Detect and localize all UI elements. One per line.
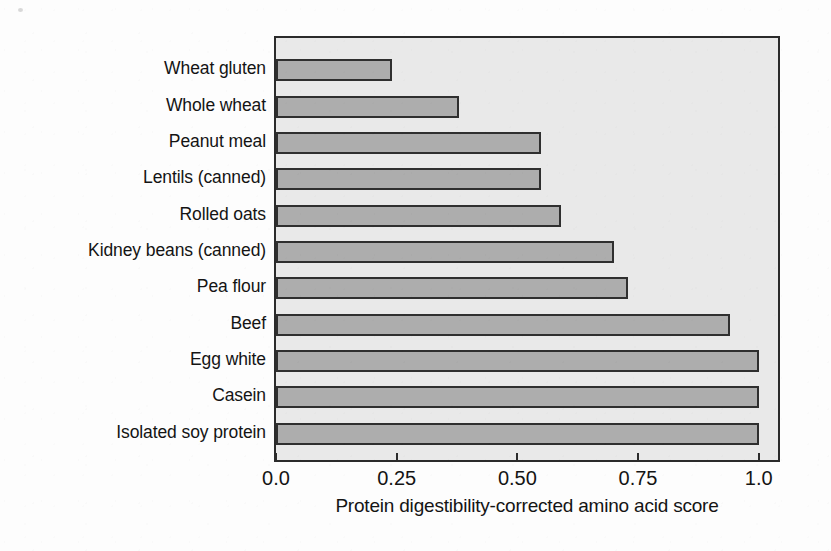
bar-lentils-canned: [276, 168, 541, 190]
x-tick-label-0.75: 0.75: [619, 466, 658, 490]
bar-beef: [276, 314, 730, 336]
chart-figure: Wheat glutenWhole wheatPeanut mealLentil…: [0, 0, 831, 551]
bar-peanut-meal: [276, 132, 541, 154]
x-axis-title: Protein digestibility-corrected amino ac…: [274, 494, 780, 517]
bar-rolled-oats: [276, 205, 561, 227]
bar-whole-wheat: [276, 96, 459, 118]
y-axis-label-casein: Casein: [12, 385, 274, 405]
bar-casein: [276, 386, 759, 408]
x-tick-mark-0.25: [396, 453, 398, 462]
bar-wheat-gluten: [276, 59, 392, 81]
y-axis-label-kidney-beans-canned: Kidney beans (canned): [12, 240, 274, 260]
x-axis-ticks: 0.00.250.500.751.0: [274, 462, 780, 472]
bar-pea-flour: [276, 277, 628, 299]
plot-area: [274, 36, 780, 462]
y-axis-label-wheat-gluten: Wheat gluten: [12, 58, 274, 78]
y-axis-label-pea-flour: Pea flour: [12, 276, 274, 296]
y-axis-label-peanut-meal: Peanut meal: [12, 131, 274, 151]
x-tick-mark-0.75: [637, 453, 639, 462]
y-axis-label-isolated-soy-protein: Isolated soy protein: [12, 422, 274, 442]
y-axis-label-beef: Beef: [12, 313, 274, 333]
x-tick-label-0.25: 0.25: [377, 466, 416, 490]
x-tick-mark-0.50: [516, 453, 518, 462]
bar-isolated-soy-protein: [276, 423, 759, 445]
scan-artifact-speck: [18, 8, 23, 12]
x-tick-mark-1.0: [758, 453, 760, 462]
y-axis-label-rolled-oats: Rolled oats: [12, 204, 274, 224]
y-axis-category-labels: Wheat glutenWhole wheatPeanut mealLentil…: [0, 36, 274, 462]
y-axis-label-egg-white: Egg white: [12, 349, 274, 369]
x-tick-mark-0.0: [275, 453, 277, 462]
y-axis-label-lentils-canned: Lentils (canned): [12, 167, 274, 187]
bar-kidney-beans-canned: [276, 241, 614, 263]
x-tick-label-0.0: 0.0: [262, 466, 290, 490]
x-tick-label-1.0: 1.0: [745, 466, 773, 490]
y-axis-label-whole-wheat: Whole wheat: [12, 95, 274, 115]
bar-egg-white: [276, 350, 759, 372]
x-tick-label-0.50: 0.50: [498, 466, 537, 490]
